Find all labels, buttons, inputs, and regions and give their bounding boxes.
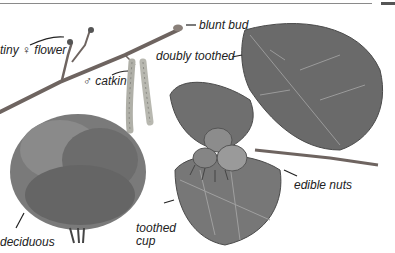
label-doubly-toothed: doubly toothed <box>156 50 235 63</box>
label-blunt-bud: blunt bud <box>199 19 248 32</box>
twig-branch <box>0 25 183 113</box>
catkin-icon <box>129 62 150 130</box>
label-toothed-cup-line2: cup <box>136 235 155 248</box>
shrub-tree-icon <box>10 114 146 243</box>
female-flower-icon <box>67 39 73 45</box>
illustration-art <box>0 0 395 253</box>
label-tiny-female-flower: tiny ♀ flower <box>0 44 66 57</box>
label-edible-nuts: edible nuts <box>294 179 352 192</box>
label-male-catkin: ♂ catkin <box>83 75 127 88</box>
label-deciduous: deciduous <box>0 236 55 249</box>
blunt-bud-icon <box>173 25 183 32</box>
illustration-canvas: tiny ♀ flower blunt bud doubly toothed ♂… <box>0 0 395 253</box>
